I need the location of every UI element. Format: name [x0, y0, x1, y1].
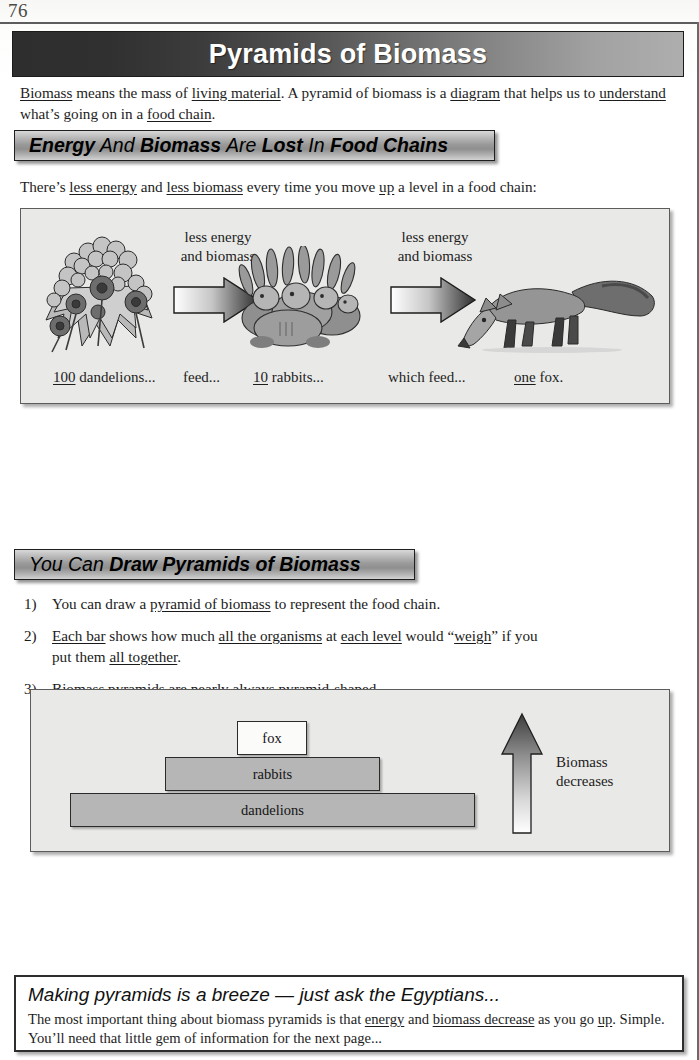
chain-caption-fox-number: one [514, 369, 536, 385]
up-arrow-icon [500, 712, 544, 835]
section1-lead-paragraph: There’s less energy and less biomass eve… [20, 176, 680, 197]
chain-caption-feed: feed... [183, 369, 220, 386]
biomass-decreases-label: Biomass decreases [556, 753, 666, 791]
li2-t2: at [322, 627, 341, 644]
li2-term-each-level: each level [341, 627, 402, 644]
li2-term-each-bar: Each bar [52, 627, 106, 644]
chain-caption-dandelions: 100 dandelions... [53, 369, 156, 386]
page-title: Pyramids of Biomass [209, 39, 487, 70]
sh1-p1: Energy [29, 134, 95, 156]
sh1-p7: Food Chains [330, 134, 448, 156]
section-heading-2-text: You Can Draw Pyramids of Biomass [29, 553, 361, 576]
list-item-number: 2) [24, 625, 48, 646]
list-item-number: 1) [24, 593, 48, 614]
intro-term-understand: understand [599, 84, 666, 101]
chain-caption-dandelions-number: 100 [53, 369, 76, 385]
arrow-label-2: less energy and biomass [380, 228, 490, 266]
page-number: 76 [8, 0, 28, 22]
summary-heading: Making pyramids is a breeze — just ask t… [28, 984, 670, 1006]
textbook-page: 76 Pyramids of Biomass Biomass means the… [0, 0, 699, 1060]
chain-caption-rabbits-text: rabbits... [268, 369, 324, 385]
li2-term-all-the-organisms: all the organisms [219, 627, 323, 644]
rabbits-illustration [222, 246, 382, 354]
lead-text-3: every time you move [243, 178, 379, 195]
sh2-p2: Draw Pyramids of Biomass [109, 553, 360, 575]
arrow-label-1-line1: less energy [163, 228, 273, 247]
intro-text-3: that helps us to [500, 84, 599, 101]
list-item: 2)Each bar shows how much all the organi… [22, 625, 542, 667]
li1-t2: to represent the food chain. [271, 595, 441, 612]
pyramid-bar-fox: fox [237, 721, 307, 755]
biomass-label-line2: decreases [556, 772, 666, 791]
section-heading-energy-biomass: Energy And Biomass Are Lost In Food Chai… [14, 130, 495, 161]
lead-text-4: a level in a food chain: [394, 178, 537, 195]
sum-t2: and [404, 1011, 432, 1027]
summary-box: Making pyramids is a breeze — just ask t… [14, 975, 684, 1052]
li2-t1: shows how much [106, 627, 219, 644]
section-heading-draw-pyramids: You Can Draw Pyramids of Biomass [14, 549, 415, 580]
chain-caption-fox: one fox. [514, 369, 563, 386]
sh1-p3: Biomass [140, 134, 221, 156]
intro-term-diagram: diagram [450, 84, 500, 101]
sh1-p2: And [95, 134, 140, 156]
biomass-label-line1: Biomass [556, 753, 666, 772]
sh1-p6: In [303, 134, 330, 156]
intro-term-food-chain: food chain [147, 105, 212, 122]
lead-term-less-energy: less energy [69, 178, 137, 195]
intro-paragraph: Biomass means the mass of living materia… [20, 82, 680, 124]
sum-t3: as you go [534, 1011, 597, 1027]
sum-t1: The most important thing about biomass p… [28, 1011, 365, 1027]
page-title-banner: Pyramids of Biomass [12, 31, 684, 77]
li2-term-weigh: weigh [454, 627, 491, 644]
intro-text-4: what’s going on in a [20, 105, 147, 122]
sh1-p4: Are [221, 134, 261, 156]
sum-term-biomass-decrease: biomass decrease [433, 1011, 535, 1027]
sum-term-up: up [598, 1011, 613, 1027]
pyramid-bar-rabbits: rabbits [165, 757, 380, 791]
sum-term-energy: energy [365, 1011, 404, 1027]
sh2-p1: You Can [29, 553, 109, 575]
chain-caption-dandelions-text: dandelions... [76, 369, 156, 385]
chain-caption-rabbits-number: 10 [253, 369, 268, 385]
intro-text-1: means the mass of [72, 84, 191, 101]
fox-illustration [452, 262, 662, 354]
intro-text-2: . A pyramid of biomass is a [281, 84, 451, 101]
top-rule-divider [0, 22, 699, 24]
li2-term-all-together: all together [109, 648, 177, 665]
li1-t1: You can draw a [52, 595, 150, 612]
lead-text-2: and [137, 178, 167, 195]
summary-body: The most important thing about biomass p… [28, 1010, 670, 1048]
li2-t3: would “ [402, 627, 454, 644]
lead-term-up: up [379, 178, 394, 195]
pyramid-bar-dandelions: dandelions [70, 793, 475, 827]
chain-caption-fox-text: fox. [536, 369, 564, 385]
chain-caption-which-feed: which feed... [388, 369, 465, 386]
section-heading-1-text: Energy And Biomass Are Lost In Food Chai… [29, 134, 448, 157]
intro-term-living-material: living material [192, 84, 281, 101]
lead-term-less-biomass: less biomass [167, 178, 243, 195]
intro-term-biomass: Biomass [20, 84, 72, 101]
li2-t5: . [177, 648, 181, 665]
chain-caption-rabbits: 10 rabbits... [253, 369, 324, 386]
arrow-label-2-line1: less energy [380, 228, 490, 247]
list-item: 1)You can draw a pyramid of biomass to r… [22, 593, 542, 614]
sh1-p5: Lost [262, 134, 303, 156]
lead-text-1: There’s [20, 178, 69, 195]
li1-term-pyramid-of-biomass: pyramid of biomass [150, 595, 271, 612]
intro-text-5: . [212, 105, 216, 122]
dandelions-illustration [38, 228, 162, 354]
